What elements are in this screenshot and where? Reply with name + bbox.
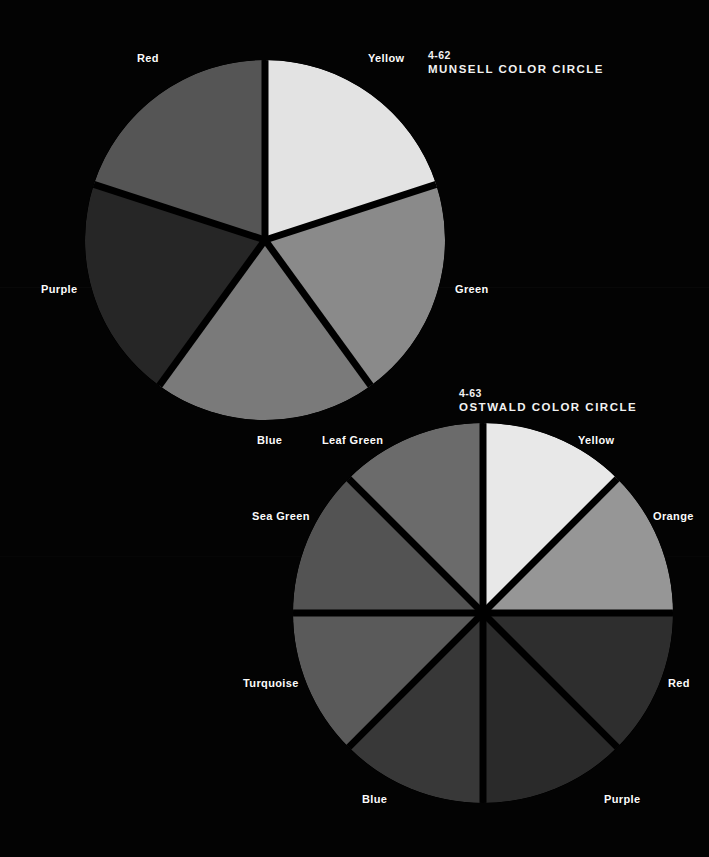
ostwald-label-leaf-green: Leaf Green <box>322 434 383 447</box>
ostwald-label-purple: Purple <box>604 793 641 806</box>
munsell-label-red: Red <box>137 52 159 65</box>
munsell-label-purple: Purple <box>41 283 78 296</box>
figure-title-munsell: MUNSELL COLOR CIRCLE <box>428 62 604 77</box>
page-canvas: 4-62 MUNSELL COLOR CIRCLE <box>0 0 709 857</box>
munsell-label-green: Green <box>455 283 489 296</box>
ostwald-label-blue: Blue <box>362 793 387 806</box>
ostwald-label-orange: Orange <box>653 510 694 523</box>
caption-munsell: 4-62 MUNSELL COLOR CIRCLE <box>428 48 604 77</box>
ostwald-label-turquoise: Turquoise <box>243 677 299 690</box>
ostwald-label-red: Red <box>668 677 690 690</box>
figure-title-ostwald: OSTWALD COLOR CIRCLE <box>459 400 637 415</box>
ostwald-label-sea-green: Sea Green <box>252 510 310 523</box>
munsell-wheel-svg <box>85 60 445 420</box>
ostwald-wheel-svg <box>293 423 673 803</box>
ostwald-label-yellow: Yellow <box>578 434 615 447</box>
caption-ostwald: 4-63 OSTWALD COLOR CIRCLE <box>459 386 637 415</box>
munsell-color-wheel[interactable] <box>85 60 445 420</box>
ostwald-divider-lines <box>293 423 673 803</box>
figure-number-munsell: 4-62 <box>428 48 604 62</box>
munsell-label-blue: Blue <box>257 434 282 447</box>
munsell-label-yellow: Yellow <box>368 52 405 65</box>
ostwald-color-wheel[interactable] <box>293 423 673 803</box>
figure-number-ostwald: 4-63 <box>459 386 637 400</box>
